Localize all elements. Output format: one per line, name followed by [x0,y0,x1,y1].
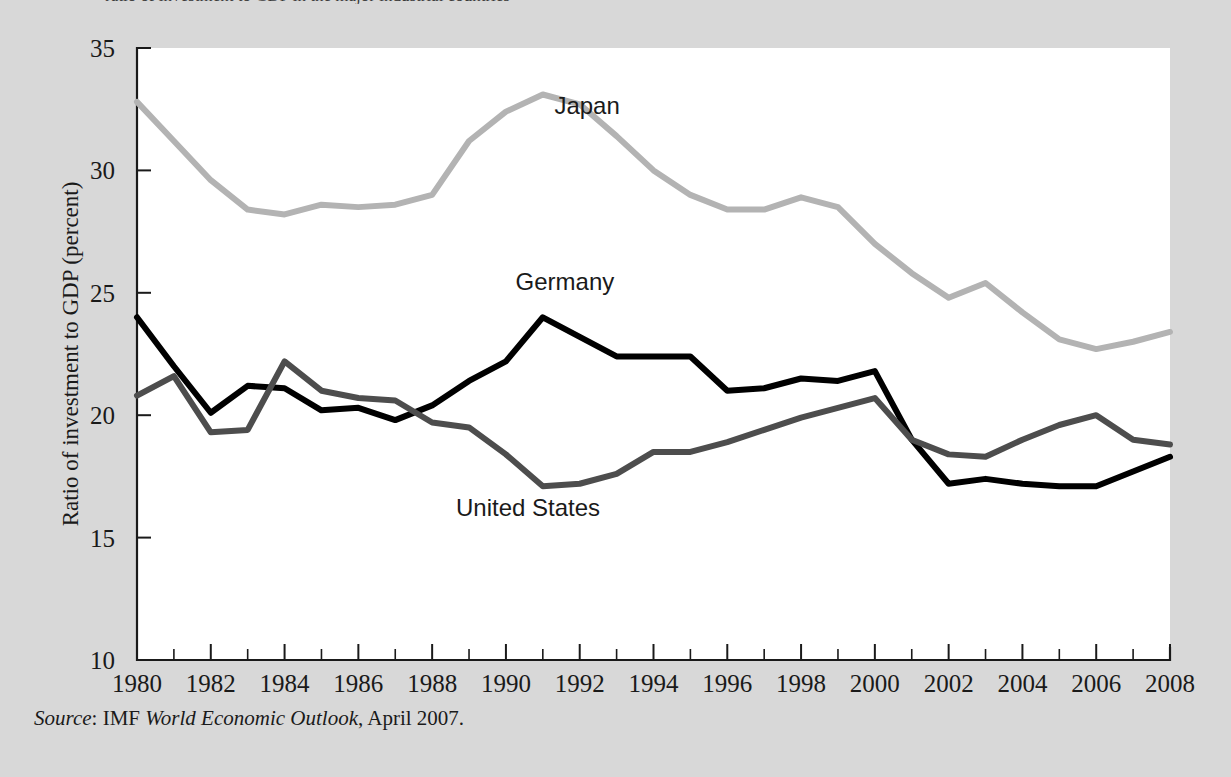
series-label-united-states: United States [456,494,600,521]
x-tick-label: 2004 [997,670,1048,697]
figure-container: ratio of investment to GDP in the major … [0,0,1231,777]
source-publisher: IMF [103,706,140,730]
x-tick-label: 2000 [850,670,900,697]
x-tick-labels-group: 1980198219841986198819901992199419961998… [112,670,1195,697]
x-tick-label: 2006 [1071,670,1121,697]
y-axis-title: Ratio of investment to GDP (percent) [58,182,83,527]
investment-gdp-line-chart: 101520253035 198019821984198619881990199… [0,0,1231,700]
series-label-germany: Germany [516,268,615,295]
y-tick-label: 25 [90,280,115,307]
y-tick-label: 30 [90,157,115,184]
source-comma: , [358,706,367,730]
source-date: April 2007. [367,706,464,730]
chart-plot-area: 101520253035 198019821984198619881990199… [0,0,1231,700]
x-tick-label: 1998 [776,670,826,697]
x-tick-label: 1980 [112,670,162,697]
x-tick-label: 1990 [481,670,531,697]
source-prefix: Source [34,706,92,730]
x-tick-label: 1996 [702,670,752,697]
y-tick-label: 35 [90,35,115,62]
y-tick-labels-group: 101520253035 [90,35,115,674]
x-tick-label: 2002 [924,670,974,697]
series-label-japan: Japan [554,92,619,119]
y-tick-label: 20 [90,402,115,429]
x-tick-label: 1982 [186,670,236,697]
x-tick-label: 1988 [407,670,457,697]
source-publication: World Economic Outlook [145,706,358,730]
y-tick-label: 15 [90,525,115,552]
x-tick-label: 1986 [333,670,383,697]
x-tick-label: 1984 [260,670,311,697]
x-tick-label: 1992 [555,670,605,697]
x-tick-label: 1994 [629,670,680,697]
source-colon: : [92,706,103,730]
source-note: Source: IMF World Economic Outlook, Apri… [34,706,464,731]
x-tick-label: 2008 [1145,670,1195,697]
